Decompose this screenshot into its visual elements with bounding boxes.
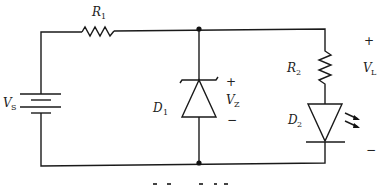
wire-left-top [41,32,82,94]
wire-top [114,29,325,48]
r2-subscript: 2 [296,68,301,77]
r2-label: R [286,61,296,75]
vl-subscript: L [371,68,377,77]
junction-top [196,26,201,31]
r1-label: R [91,5,101,19]
zener-diode-d1: D 1 [152,77,218,117]
r1-subscript: 1 [101,12,106,21]
battery-vs: V S [3,94,61,113]
vl-voltage: + V L − [363,34,377,157]
vl-minus: − [366,143,376,157]
clipped-caption [153,183,228,185]
vz-subscript: Z [234,100,240,109]
d1-subscript: 1 [163,108,168,117]
wire-left-bottom [41,113,325,166]
resistor-r2: R 2 [286,48,331,88]
light-emission-arrows-icon [345,113,360,128]
vl-plus: + [364,34,374,48]
vz-voltage: + V Z − [226,75,240,127]
d1-label: D [152,101,163,115]
vz-minus: − [227,113,237,127]
wires [41,29,325,166]
d2-subscript: 2 [297,120,302,129]
vz-plus: + [226,75,236,89]
junction-bottom [196,160,201,165]
led-d2: D 2 [287,104,360,142]
resistor-r1: R 1 [82,5,114,36]
vs-subscript: S [11,103,16,112]
circuit-diagram: R 1 R 2 V S D 1 + V Z − [0,0,380,185]
